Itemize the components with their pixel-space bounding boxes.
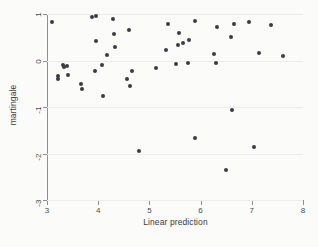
x-tick-label: 4 [88, 206, 108, 215]
data-point [127, 28, 131, 32]
data-point [128, 84, 132, 88]
data-point [174, 62, 178, 66]
data-point [137, 149, 141, 153]
data-point [176, 43, 180, 47]
y-tick-label: 1 [0, 10, 42, 18]
data-point [111, 17, 115, 21]
y-tick-label: -1 [0, 103, 42, 111]
data-point [50, 20, 54, 24]
data-point [154, 66, 158, 70]
data-point [232, 22, 236, 26]
x-tick-mark [47, 201, 48, 205]
y-tick-mark [43, 14, 47, 15]
x-tick-mark [252, 201, 253, 205]
gridline [47, 107, 303, 108]
x-tick-label: 7 [242, 206, 262, 215]
y-tick-mark [43, 107, 47, 108]
y-tick-label-text: -2 [35, 153, 43, 160]
x-tick-mark [303, 201, 304, 205]
y-tick-mark [43, 61, 47, 62]
y-tick-label: -3 [0, 196, 42, 204]
data-point [281, 54, 285, 58]
x-axis-title: Linear prediction [47, 217, 304, 227]
data-point [113, 45, 117, 49]
x-tick-label: 8 [293, 206, 313, 215]
data-point [125, 77, 129, 81]
x-tick-mark [149, 201, 150, 205]
data-point [100, 63, 104, 67]
gridline [47, 200, 303, 201]
x-tick-mark [201, 201, 202, 205]
y-axis-title: martingale [8, 70, 18, 140]
gridline [47, 14, 303, 15]
x-tick-label: 6 [191, 206, 211, 215]
data-point [181, 41, 185, 45]
data-point [193, 19, 197, 23]
y-tick-label-text: 1 [35, 12, 43, 16]
y-tick-label-text: -1 [35, 107, 43, 114]
x-tick-mark [98, 201, 99, 205]
data-point [93, 69, 97, 73]
gridline [47, 154, 303, 155]
data-point [105, 53, 109, 57]
data-point [80, 87, 84, 91]
y-tick-label-text: 0 [35, 59, 43, 63]
x-tick-label: 5 [139, 206, 159, 215]
scatter-plot-figure: 10-1-2-3 345678 Linear prediction martin… [0, 0, 318, 247]
data-point [177, 31, 181, 35]
y-tick-label: -2 [0, 150, 42, 158]
data-point [269, 23, 273, 27]
x-tick-label: 3 [37, 206, 57, 215]
y-tick-mark [43, 154, 47, 155]
y-tick-label: 0 [0, 57, 42, 65]
data-point [79, 82, 83, 86]
